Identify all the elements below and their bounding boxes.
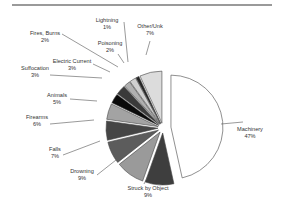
pie-slice-machinery xyxy=(171,75,223,178)
leader-line xyxy=(221,122,243,124)
slice-label: Animals5% xyxy=(47,92,67,105)
slice-label: Firearms6% xyxy=(26,114,48,127)
slice-label: Drowning9% xyxy=(70,168,94,181)
slice-label: Fires, Burns2% xyxy=(30,30,60,43)
leader-line xyxy=(50,120,94,124)
pie-chart: Machinery47%Struck by Object9%Drowning9%… xyxy=(0,0,283,210)
leader-line xyxy=(124,22,128,62)
slice-label: Struck by Object9% xyxy=(127,185,168,198)
slice-label: Electric Current3% xyxy=(53,58,92,71)
leader-line xyxy=(70,99,97,101)
slice-label: Machinery47% xyxy=(237,126,263,139)
leader-line xyxy=(118,54,124,63)
leader-line xyxy=(63,141,100,155)
leader-line xyxy=(93,64,110,72)
leader-line xyxy=(97,160,116,175)
leader-line xyxy=(50,75,102,78)
slice-label: Falls7% xyxy=(49,146,61,159)
slice-label: Lightning1% xyxy=(96,17,119,30)
slice-label: Other/Unk7% xyxy=(137,23,163,36)
slice-label: Poisoning2% xyxy=(98,40,123,53)
slice-label: Suffocation3% xyxy=(21,65,49,78)
leader-line xyxy=(146,41,150,55)
